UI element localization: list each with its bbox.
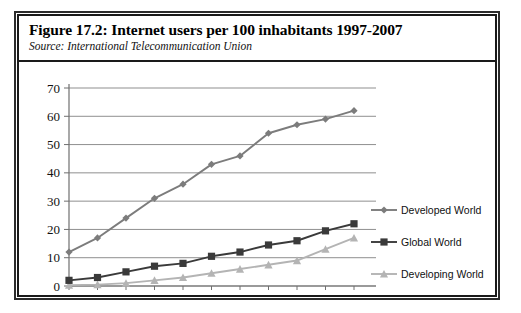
data-point-marker	[65, 277, 72, 284]
data-point-marker	[179, 260, 186, 267]
legend-item-developed-world: Developed World	[371, 204, 482, 216]
y-axis-label: 50	[47, 137, 60, 152]
series-line	[69, 238, 354, 285]
data-point-marker	[380, 238, 387, 245]
x-axis-label: 1999	[113, 293, 139, 295]
legend-item-global-world: Global World	[371, 236, 462, 248]
x-axis-label: 2001	[170, 293, 196, 295]
y-axis-label: 20	[47, 222, 60, 237]
legend-item-developing-world: Developing World	[371, 268, 484, 280]
data-point-marker	[151, 263, 158, 270]
figure-title: Figure 17.2: Internet users per 100 inha…	[29, 21, 487, 39]
line-chart: 010203040506070199719992001200320052007D…	[19, 62, 495, 295]
chart-plot-area: 010203040506070199719992001200320052007D…	[19, 62, 495, 295]
data-point-marker	[350, 220, 357, 227]
series-developing-world	[65, 234, 358, 289]
legend-label: Global World	[401, 236, 462, 248]
legend-label: Developed World	[401, 204, 482, 216]
data-point-marker	[236, 248, 243, 255]
data-point-marker	[94, 274, 101, 281]
data-point-marker	[65, 248, 72, 255]
x-axis-label: 1997	[56, 293, 83, 295]
x-axis-label: 2003	[227, 293, 253, 295]
x-axis-label: 2005	[284, 293, 310, 295]
x-axis-label: 2007	[341, 293, 368, 295]
data-point-marker	[322, 227, 329, 234]
data-point-marker	[350, 107, 357, 114]
data-point-marker	[293, 121, 300, 128]
data-point-marker	[380, 206, 387, 213]
data-point-marker	[208, 253, 215, 260]
y-axis-label: 30	[47, 194, 60, 209]
data-point-marker	[293, 237, 300, 244]
y-axis-label: 70	[47, 81, 60, 96]
y-axis-label: 60	[47, 109, 60, 124]
series-line	[69, 111, 354, 252]
data-point-marker	[350, 234, 358, 242]
y-axis-label: 40	[47, 165, 60, 180]
y-axis-label: 10	[47, 250, 60, 265]
figure-frame: Figure 17.2: Internet users per 100 inha…	[17, 14, 497, 297]
y-axis-label: 0	[54, 279, 61, 294]
figure-source: Source: International Telecommunication …	[29, 40, 487, 53]
legend-label: Developing World	[401, 268, 484, 280]
figure-header: Figure 17.2: Internet users per 100 inha…	[19, 16, 495, 55]
data-point-marker	[265, 241, 272, 248]
data-point-marker	[122, 268, 129, 275]
series-developed-world	[65, 107, 357, 256]
